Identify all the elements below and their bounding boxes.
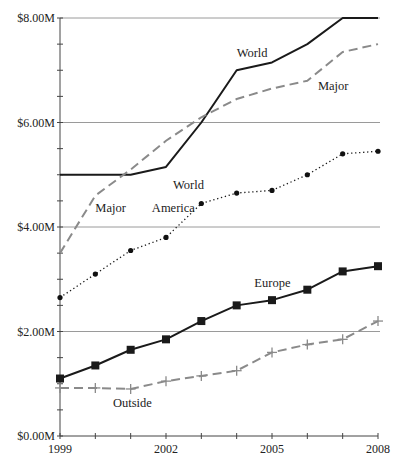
series-label-major: Major [318,79,349,93]
point-outside [232,366,242,376]
point-europe [233,301,241,309]
y-tick-label: $0.00M [17,429,55,443]
point-america [199,201,204,206]
point-europe [162,335,170,343]
point-europe [197,317,205,325]
point-america [305,172,310,177]
series-label-outside: Outside [113,396,152,410]
point-outside [267,347,277,357]
series-label-america: America [152,201,195,215]
series-labels: WorldWorldMajorMajorAmericaEuropeOutside [95,46,349,410]
point-europe [91,361,99,369]
point-america [93,271,98,276]
series-line-america [60,151,378,297]
point-america [57,295,62,300]
x-tick-label: 2002 [154,442,178,456]
y-tick-label: $6.00M [17,116,55,130]
point-america [163,235,168,240]
point-europe [56,375,64,383]
series-line-world [60,18,378,175]
point-america [340,151,345,156]
series-line-major [60,44,378,253]
y-tick-label: $2.00M [17,325,55,339]
point-outside [373,316,383,326]
point-europe [127,346,135,354]
point-america [375,149,380,154]
point-outside [196,371,206,381]
point-europe [303,286,311,294]
point-america [234,190,239,195]
point-europe [339,267,347,275]
series-label-major: Major [95,201,126,215]
x-tick-label: 2005 [260,442,284,456]
series-label-world: World [237,46,269,60]
series-line-europe [60,266,378,378]
point-europe [268,296,276,304]
y-tick-label: $8.00M [17,11,55,25]
point-america [128,248,133,253]
point-america [269,188,274,193]
series-label-europe: Europe [254,276,291,290]
x-tick-label: 2008 [366,442,390,456]
point-outside [90,383,100,393]
y-tick-label: $4.00M [17,220,55,234]
point-outside [126,384,136,394]
series-label-world: World [173,178,205,192]
point-outside [338,334,348,344]
line-chart: $0.00M$2.00M$4.00M$6.00M$8.00M 199920022… [0,0,402,472]
point-outside [161,376,171,386]
x-tick-label: 1999 [48,442,72,456]
point-outside [302,340,312,350]
point-outside [55,383,65,393]
point-europe [374,262,382,270]
